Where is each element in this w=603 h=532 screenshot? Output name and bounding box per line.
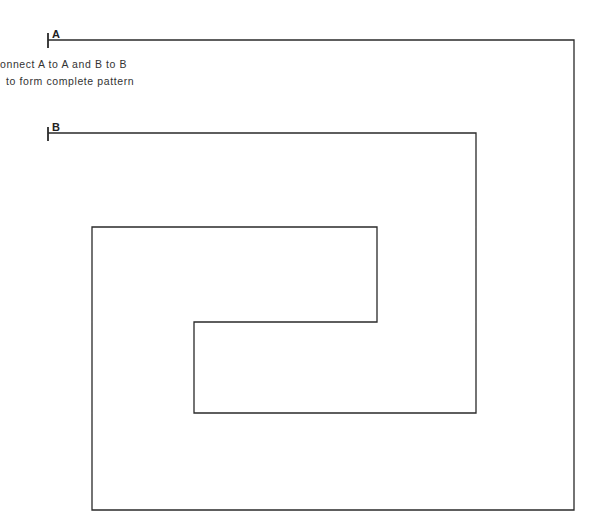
label-b: B (52, 121, 60, 133)
label-a: A (52, 28, 60, 40)
instruction-line-1: onnect A to A and B to B (0, 58, 127, 70)
instruction-line-2: to form complete pattern (6, 75, 134, 87)
maze-path (48, 40, 574, 510)
puzzle-diagram: A B onnect A to A and B to B to form com… (0, 0, 603, 532)
